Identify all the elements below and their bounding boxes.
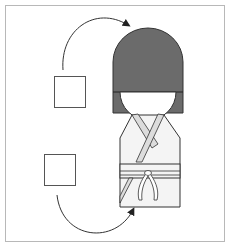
doll-diagram xyxy=(0,0,235,246)
doll-kimono xyxy=(120,115,180,207)
paper-square-bottom xyxy=(45,155,76,186)
paper-square-top xyxy=(55,77,86,108)
doll xyxy=(113,28,183,207)
